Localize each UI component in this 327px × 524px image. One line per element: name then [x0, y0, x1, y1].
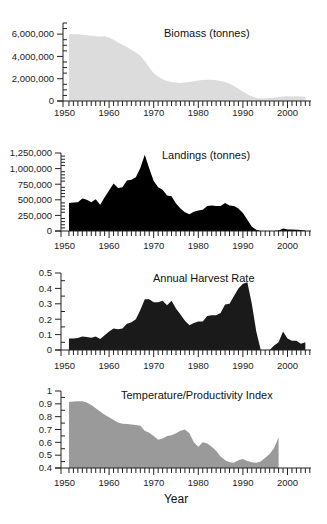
y-tick-label: 0.8	[39, 411, 52, 422]
y-tick-label: 0.5	[39, 449, 52, 460]
biomass-title: Biomass (tonnes)	[164, 27, 250, 39]
x-tick-label: 1960	[99, 360, 120, 371]
biomass-panel: Biomass (tonnes) 02,000,0004,000,0006,00…	[12, 23, 311, 118]
x-tick-label: 1950	[54, 107, 75, 118]
x-tick-label: 1980	[188, 107, 209, 118]
y-tick-label: 0	[47, 225, 52, 236]
x-tick-label: 1990	[232, 107, 253, 118]
y-tick-label: 0.6	[39, 437, 52, 448]
x-tick-label: 1970	[143, 107, 164, 118]
landings-title: Landings (tonnes)	[162, 149, 250, 161]
y-tick-label: 1,250,000	[10, 147, 52, 158]
y-tick-label: 0.3	[39, 298, 52, 309]
x-tick-label: 2000	[277, 477, 298, 488]
y-tick-label: 0	[47, 344, 52, 355]
y-tick-label: 0.5	[39, 267, 52, 278]
x-tick-label: 1990	[232, 240, 253, 251]
area-series	[69, 282, 305, 350]
x-tick-label: 1980	[188, 477, 209, 488]
y-tick-label: 1,000,000	[10, 163, 52, 174]
harvest-rate-panel: Annual Harvest Rate 00.10.20.30.40.51950…	[39, 267, 311, 371]
y-tick-label: 0.1	[39, 329, 52, 340]
x-tick-label: 1970	[143, 477, 164, 488]
fishery-time-series-figure: Biomass (tonnes) 02,000,0004,000,0006,00…	[0, 0, 327, 524]
x-tick-label: 1960	[99, 477, 120, 488]
x-tick-label: 1950	[54, 360, 75, 371]
y-tick-label: 750,000	[18, 179, 52, 190]
x-tick-label: 1980	[188, 360, 209, 371]
x-tick-label: 1970	[143, 240, 164, 251]
temperature-productivity-panel: Temperature/Productivity Index Year 0.40…	[39, 385, 311, 506]
harvest-rate-title: Annual Harvest Rate	[153, 272, 255, 284]
y-tick-label: 6,000,000	[12, 28, 54, 39]
y-tick-label: 0.2	[39, 314, 52, 325]
x-tick-label: 1950	[54, 240, 75, 251]
y-tick-label: 0.9	[39, 398, 52, 409]
area-series	[69, 34, 305, 101]
y-tick-label: 0.4	[39, 462, 52, 473]
x-tick-label: 1960	[99, 107, 120, 118]
area-series	[69, 155, 305, 231]
y-tick-label: 250,000	[18, 210, 52, 221]
x-tick-label: 2000	[277, 107, 298, 118]
x-tick-label: 2000	[277, 240, 298, 251]
x-tick-label: 1970	[143, 360, 164, 371]
x-tick-label: 1960	[99, 240, 120, 251]
x-tick-label: 1990	[232, 360, 253, 371]
x-tick-label: 1990	[232, 477, 253, 488]
x-tick-label: 2000	[277, 360, 298, 371]
y-tick-label: 4,000,000	[12, 51, 54, 62]
x-tick-label: 1950	[54, 477, 75, 488]
x-tick-label: 1980	[188, 240, 209, 251]
y-tick-label: 0.7	[39, 424, 52, 435]
y-tick-label: 0.4	[39, 283, 52, 294]
y-tick-label: 1	[47, 385, 52, 396]
landings-panel: Landings (tonnes) 0250,000500,000750,000…	[10, 147, 311, 251]
temperature-productivity-title: Temperature/Productivity Index	[121, 389, 273, 401]
x-axis-title: Year	[164, 492, 188, 506]
y-tick-label: 500,000	[18, 194, 52, 205]
y-tick-label: 2,000,000	[12, 73, 54, 84]
y-tick-label: 0	[49, 95, 54, 106]
area-series	[69, 401, 279, 468]
